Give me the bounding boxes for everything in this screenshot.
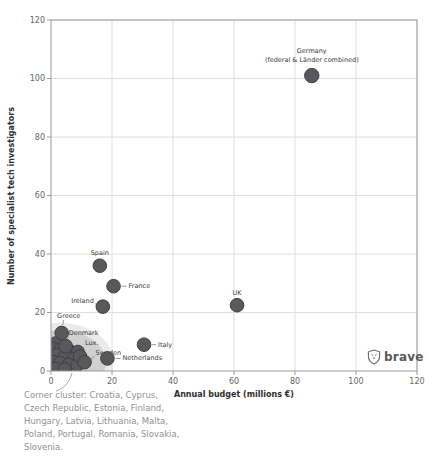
x-tick-label: 40 <box>168 377 178 386</box>
point-label: Ireland <box>71 297 93 305</box>
x-tick-label: 60 <box>229 377 239 386</box>
cluster-dot <box>58 363 71 376</box>
y-tick-label: 120 <box>30 16 45 25</box>
data-point-sweden <box>78 355 92 369</box>
brave-wordmark: brave <box>384 350 424 364</box>
x-tick-label: 100 <box>348 377 363 386</box>
y-tick-label: 80 <box>35 133 45 142</box>
data-points: Germany(federal & Länder combined)UKSpai… <box>55 47 359 369</box>
y-axis-title: Number of specialist tech investigators <box>7 107 16 285</box>
annotation-line: Corner cluster: Croatia, Cyprus, <box>24 389 194 402</box>
data-point-netherlands <box>101 352 115 366</box>
point-label: Netherlands <box>122 354 162 362</box>
data-point-germany <box>305 68 319 82</box>
point-label: Italy <box>158 341 172 349</box>
x-tick-label: 120 <box>409 377 424 386</box>
annotation-line: Slovenia. <box>24 441 194 454</box>
point-label: Lux. <box>85 339 99 347</box>
y-tick-label: 40 <box>35 250 45 259</box>
point-label: Spain <box>91 249 109 257</box>
y-tick-label: 60 <box>35 191 45 200</box>
x-tick-label: 0 <box>48 377 53 386</box>
brave-logo: brave <box>367 349 424 365</box>
point-label: Greece <box>57 312 80 320</box>
data-point-denmark <box>59 339 73 353</box>
point-label: Germany <box>297 47 327 55</box>
data-point-italy <box>137 338 151 352</box>
scatter-chart-figure: Germany(federal & Länder combined)UKSpai… <box>0 0 446 456</box>
scatter-plot-canvas: Germany(federal & Länder combined)UKSpai… <box>0 0 446 456</box>
x-tick-label: 80 <box>290 377 300 386</box>
data-point-france <box>107 279 121 293</box>
annotation-line: Hungary, Latvia, Lithuania, Malta, <box>24 415 194 428</box>
data-point-uk <box>230 298 244 312</box>
data-point-spain <box>93 259 107 273</box>
point-label: Denmark <box>69 329 99 337</box>
y-tick-label: 100 <box>30 74 45 83</box>
x-tick-label: 20 <box>107 377 117 386</box>
y-tick-label: 20 <box>35 308 45 317</box>
point-label: UK <box>233 289 243 297</box>
y-tick-label: 0 <box>40 367 45 376</box>
point-label: (federal & Länder combined) <box>265 56 359 64</box>
annotation-line: Czech Republic, Estonia, Finland, <box>24 402 194 415</box>
brave-shield-icon <box>367 349 381 365</box>
data-point-ireland <box>96 300 110 314</box>
annotation-line: Poland, Portugal, Romania, Slovakia, <box>24 428 194 441</box>
data-point-greece <box>55 326 69 340</box>
grid-lines <box>51 20 417 371</box>
corner-cluster-annotation: Corner cluster: Croatia, Cyprus, Czech R… <box>24 389 194 454</box>
point-label: France <box>129 282 151 290</box>
